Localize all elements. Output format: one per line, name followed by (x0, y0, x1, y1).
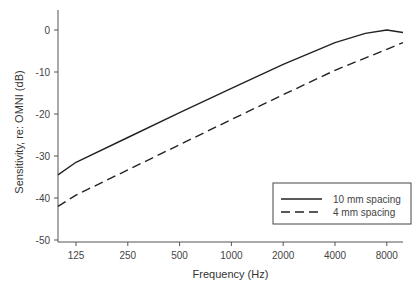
chart: 0-10-20-30-40-50125250500100020004000800… (0, 0, 416, 294)
y-tick-label: -20 (36, 109, 51, 120)
legend-label-4mm: 4 mm spacing (333, 207, 395, 218)
y-tick-label: 0 (44, 25, 50, 36)
series-10mm-line (58, 30, 403, 175)
x-tick-label: 8000 (376, 250, 399, 261)
y-tick-label: -50 (36, 235, 51, 246)
y-axis-label: Sensitivity, re: OMNI (dB) (13, 70, 25, 193)
x-tick-label: 250 (119, 250, 136, 261)
x-tick-label: 1000 (220, 250, 243, 261)
y-tick-label: -30 (36, 151, 51, 162)
y-tick-label: -10 (36, 67, 51, 78)
y-tick-label: -40 (36, 193, 51, 204)
x-tick-label: 125 (68, 250, 85, 261)
line-chart: 0-10-20-30-40-50125250500100020004000800… (0, 0, 416, 294)
x-axis-label: Frequency (Hz) (193, 268, 269, 280)
x-tick-label: 2000 (272, 250, 295, 261)
legend-label-10mm: 10 mm spacing (333, 194, 401, 205)
x-tick-label: 500 (171, 250, 188, 261)
series-4mm-line (58, 43, 403, 207)
x-tick-label: 4000 (324, 250, 347, 261)
